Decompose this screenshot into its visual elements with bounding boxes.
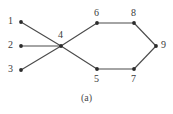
graph-edge-7-9 (134, 46, 156, 69)
graph-node-label-9: 9 (161, 40, 166, 50)
graph-node-2 (19, 44, 23, 48)
graph-node-label-3: 3 (8, 64, 13, 74)
graph-node-7 (132, 67, 136, 71)
graph-node-4 (59, 44, 63, 48)
figure-caption: (a) (0, 92, 173, 104)
graph-edge-1-4 (21, 22, 61, 46)
graph-figure: 123456789 (a) (0, 0, 173, 114)
graph-edge-8-9 (134, 23, 156, 46)
graph-node-label-6: 6 (94, 8, 99, 18)
graph-node-label-5: 5 (94, 74, 99, 84)
graph-edge-4-6 (61, 23, 97, 46)
graph-node-label-8: 8 (131, 8, 136, 18)
graph-node-6 (95, 21, 99, 25)
graph-node-label-2: 2 (8, 40, 13, 50)
graph-node-1 (19, 20, 23, 24)
graph-node-label-1: 1 (8, 16, 13, 26)
graph-node-5 (95, 67, 99, 71)
graph-node-8 (132, 21, 136, 25)
graph-node-label-7: 7 (131, 74, 136, 84)
graph-node-3 (19, 68, 23, 72)
graph-edge-4-5 (61, 46, 97, 69)
graph-edges (21, 22, 156, 70)
graph-edge-3-4 (21, 46, 61, 70)
graph-node-label-4: 4 (58, 30, 63, 40)
graph-node-9 (154, 44, 158, 48)
